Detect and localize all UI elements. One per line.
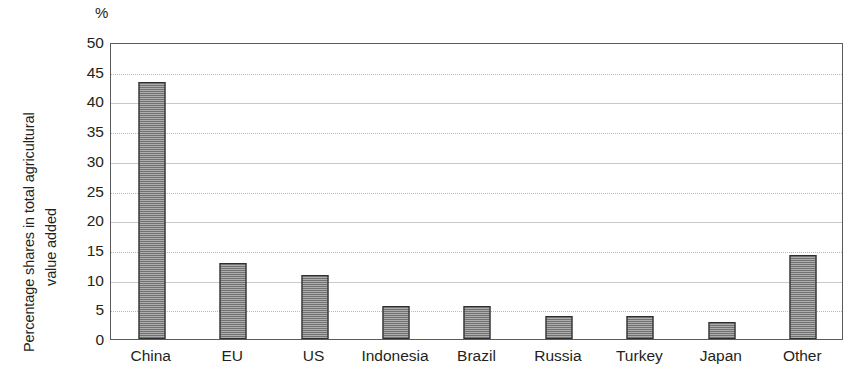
bar-slot <box>437 44 518 339</box>
bar[interactable] <box>383 306 410 339</box>
x-axis-tick-label: Indonesia <box>361 347 428 366</box>
bar-slot <box>600 44 681 339</box>
bar[interactable] <box>545 316 572 339</box>
y-axis-tick-label: 10 <box>58 273 104 289</box>
y-axis-tick-label: 35 <box>58 124 104 140</box>
y-axis-tick-labels: 50454035302520151050 <box>56 0 104 387</box>
y-axis-tick-label: 45 <box>58 65 104 81</box>
bar-slot <box>111 44 192 339</box>
y-axis-tick-label: 50 <box>58 35 104 51</box>
y-axis-tick-label: 5 <box>58 303 104 319</box>
bar[interactable] <box>627 316 654 339</box>
x-axis-tick-label: Japan <box>700 347 742 366</box>
x-axis-tick-labels: ChinaEUUSIndonesiaBrazilRussiaTurkeyJapa… <box>110 347 843 375</box>
x-axis-tick-label: US <box>303 347 325 366</box>
bar[interactable] <box>301 275 328 339</box>
x-axis-tick-label: Other <box>783 347 822 366</box>
bar-slot <box>355 44 436 339</box>
bar-series <box>111 44 842 339</box>
y-axis-tick-label: 20 <box>58 213 104 229</box>
y-axis-title-line-1: Percentage shares in total agricultural <box>19 112 40 352</box>
x-axis-tick-label: Brazil <box>457 347 496 366</box>
x-axis-tick-label: Turkey <box>616 347 663 366</box>
x-axis-tick-label: Russia <box>534 347 581 366</box>
y-axis-title: Percentage shares in total agricultural … <box>0 0 60 387</box>
bar-chart: Percentage shares in total agricultural … <box>0 0 860 387</box>
y-axis-tick-label: 30 <box>58 154 104 170</box>
bar-slot <box>518 44 599 339</box>
x-axis-tick-label: China <box>130 347 171 366</box>
bar-slot <box>274 44 355 339</box>
bar-slot <box>681 44 762 339</box>
bar-slot <box>192 44 273 339</box>
bar[interactable] <box>220 263 247 339</box>
y-axis-tick-label: 0 <box>58 332 104 348</box>
plot-area <box>110 43 843 340</box>
x-axis-tick-label: EU <box>221 347 243 366</box>
bar-slot <box>763 44 844 339</box>
bar[interactable] <box>708 322 735 339</box>
bar[interactable] <box>464 306 491 339</box>
bar[interactable] <box>790 255 817 339</box>
y-axis-tick-label: 25 <box>58 184 104 200</box>
y-axis-tick-label: 15 <box>58 243 104 259</box>
y-axis-tick-label: 40 <box>58 95 104 111</box>
bar[interactable] <box>138 82 165 339</box>
